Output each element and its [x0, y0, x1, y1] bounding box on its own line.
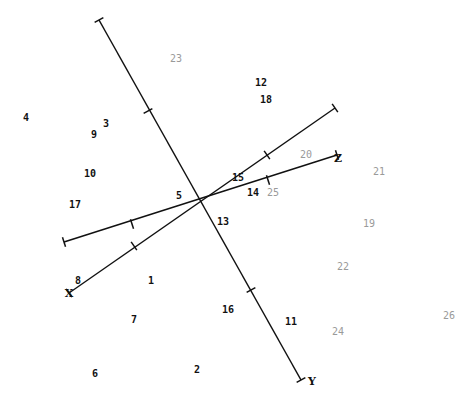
x-axis-line [69, 108, 335, 293]
point-label-13: 13 [217, 217, 229, 227]
point-label-18: 18 [260, 95, 272, 105]
point-label-20: 20 [300, 150, 312, 160]
point-label-25: 25 [267, 188, 279, 198]
x-axis-tick [264, 151, 270, 159]
point-label-17: 17 [69, 200, 81, 210]
point-label-16: 16 [222, 305, 234, 315]
point-label-4: 4 [23, 113, 29, 123]
x-axis-label: X [65, 287, 74, 300]
point-label-1: 1 [148, 276, 154, 286]
point-label-9: 9 [91, 130, 97, 140]
point-label-6: 6 [92, 369, 98, 379]
point-label-14: 14 [247, 188, 259, 198]
y-axis-label: Y [308, 375, 316, 388]
point-label-3: 3 [103, 119, 109, 129]
point-label-10: 10 [84, 169, 96, 179]
point-label-11: 11 [285, 317, 297, 327]
point-label-5: 5 [176, 191, 182, 201]
point-label-21: 21 [373, 167, 385, 177]
z-axis-line [64, 155, 337, 242]
point-label-26: 26 [443, 311, 455, 321]
axes-layer [62, 18, 338, 383]
point-label-2: 2 [194, 365, 200, 375]
point-label-7: 7 [131, 315, 137, 325]
y-axis-end-tick [95, 18, 104, 23]
point-label-8: 8 [75, 276, 81, 286]
y-axis-end-tick [297, 378, 306, 383]
x-axis-end-tick [332, 104, 338, 112]
y-axis-line [99, 20, 301, 380]
point-label-12: 12 [255, 78, 267, 88]
point-label-22: 22 [337, 262, 349, 272]
point-label-24: 24 [332, 327, 344, 337]
point-label-19: 19 [363, 219, 375, 229]
z-axis-label: Z [334, 152, 342, 165]
point-label-15: 15 [232, 173, 244, 183]
point-label-23: 23 [170, 54, 182, 64]
